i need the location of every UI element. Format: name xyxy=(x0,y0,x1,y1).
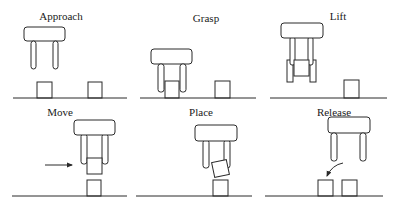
block xyxy=(87,180,101,196)
panel-place: Place xyxy=(136,106,252,196)
gripper-body xyxy=(195,125,237,141)
pick-and-place-diagram: Approach Grasp Lift xyxy=(0,0,400,208)
panel-release: Release xyxy=(265,106,383,196)
panel-label-place: Place xyxy=(189,106,213,118)
panel-grasp: Grasp xyxy=(140,12,256,98)
panel-label-release: Release xyxy=(317,106,351,118)
block xyxy=(344,80,359,98)
gripper-finger-left xyxy=(158,64,164,92)
gripper xyxy=(24,27,65,69)
curved-arrow-icon xyxy=(327,163,343,176)
gripper-finger-left xyxy=(331,133,337,161)
block xyxy=(88,82,102,98)
block xyxy=(37,82,52,98)
gripper-finger-left xyxy=(203,140,209,168)
gripper xyxy=(74,120,115,164)
gripper-body xyxy=(24,27,65,41)
gripper-finger-right xyxy=(53,41,58,69)
gripper-body xyxy=(74,120,115,135)
gripper-finger-right xyxy=(180,64,186,92)
gripper-finger-right xyxy=(102,134,108,164)
panel-label-approach: Approach xyxy=(39,10,83,22)
gripper-finger-left xyxy=(81,134,87,164)
panel-label-grasp: Grasp xyxy=(193,12,220,24)
block-grasped xyxy=(165,81,179,98)
gripper-body xyxy=(281,23,323,38)
block xyxy=(215,81,230,98)
block-placed xyxy=(318,180,333,196)
panel-move: Move xyxy=(12,106,127,196)
panel-approach: Approach xyxy=(13,10,127,98)
gripper-finger-left xyxy=(31,41,36,69)
block xyxy=(213,180,228,196)
gripper-finger-right xyxy=(360,133,366,161)
block xyxy=(342,180,357,196)
block-carried xyxy=(87,158,102,174)
panel-label-move: Move xyxy=(47,106,73,118)
panel-label-lift: Lift xyxy=(330,10,347,22)
gripper xyxy=(328,117,370,161)
gripper-body xyxy=(328,117,370,133)
gripper-body xyxy=(151,49,192,64)
block-tilted xyxy=(212,160,230,178)
panel-lift: Lift xyxy=(270,10,387,98)
block-lifted xyxy=(294,60,309,76)
